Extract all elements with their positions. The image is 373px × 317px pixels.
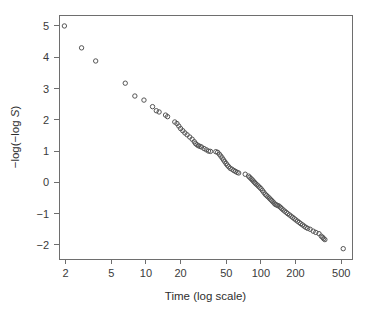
data-points-layer (62, 24, 345, 251)
y-tick-label: −2 (36, 239, 49, 251)
x-tick-label: 5 (108, 267, 114, 279)
y-tick-label: 3 (43, 83, 49, 95)
y-axis-title-text: −log(−log S) (9, 106, 21, 169)
y-tick-label: 5 (43, 20, 49, 32)
x-tick-label: 500 (332, 267, 350, 279)
x-axis-title-text: Time (log scale) (165, 290, 247, 302)
x-tick-label: 20 (174, 267, 186, 279)
y-tick-label: 0 (43, 176, 49, 188)
x-tick-label: 2 (63, 267, 69, 279)
survival-plot-figure: 25102050100200500 −2−1012345 Time (log s… (0, 0, 373, 317)
plot-frame (59, 15, 352, 259)
y-axis-ticks: −2−1012345 (36, 20, 59, 251)
x-axis-ticks: 25102050100200500 (63, 259, 351, 279)
data-point (93, 59, 97, 63)
x-axis-title: Time (log scale) (165, 290, 247, 302)
y-axis-title: −log(−log S) (9, 106, 21, 169)
data-point (150, 104, 154, 108)
data-point (79, 46, 83, 50)
data-point (123, 81, 127, 85)
y-tick-label: 2 (43, 114, 49, 126)
data-point (142, 98, 146, 102)
x-tick-label: 50 (220, 267, 232, 279)
y-tick-label: 4 (43, 51, 49, 63)
x-tick-label: 100 (252, 267, 270, 279)
plot-canvas: 25102050100200500 −2−1012345 Time (log s… (0, 0, 373, 317)
y-tick-label: −1 (36, 208, 49, 220)
data-point (133, 94, 137, 98)
x-tick-label: 200 (286, 267, 304, 279)
data-point (62, 24, 66, 28)
x-tick-label: 10 (140, 267, 152, 279)
data-point (341, 246, 345, 250)
y-tick-label: 1 (43, 145, 49, 157)
